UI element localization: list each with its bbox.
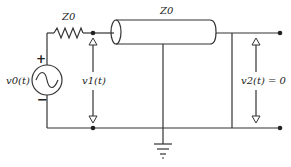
output-terminal-top [278,31,283,36]
ac-voltage-source [32,65,62,95]
plus-sign: + [36,52,46,66]
minus-sign: − [37,92,48,107]
ground-icon [154,144,172,158]
v1-label: v1(t) [82,75,106,86]
resistor-label: Z0 [61,11,76,22]
circuit-diagram: + − v0(t) Z0 Z0 v1(t) [0,0,291,167]
source-voltage-label: v0(t) [6,75,30,86]
v2-label: v2(t) = 0 [241,75,287,86]
input-node-bottom [91,126,96,131]
line-impedance-label: Z0 [159,5,174,16]
transmission-line [111,20,216,44]
input-node-top [91,31,96,36]
source-resistor [47,28,93,38]
